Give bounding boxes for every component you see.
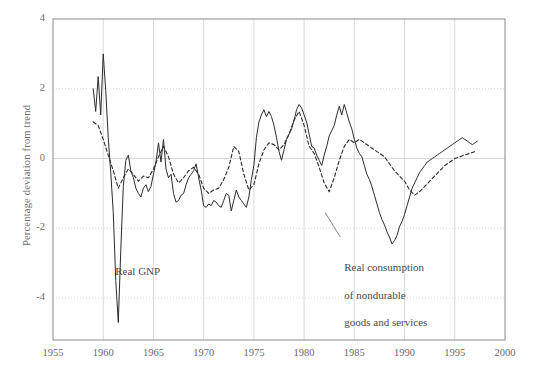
x-tick-1985: 1985 bbox=[334, 347, 374, 358]
annotation-line-1: Real consumption bbox=[344, 261, 427, 275]
annotation-line-3: goods and services bbox=[344, 316, 427, 330]
x-tick-1960: 1960 bbox=[83, 347, 123, 358]
x-tick-1970: 1970 bbox=[184, 347, 224, 358]
chart-container: Percentage deviation from trend 19551960… bbox=[0, 0, 544, 383]
y-tick--4: -4 bbox=[19, 291, 45, 302]
x-tick-1990: 1990 bbox=[385, 347, 425, 358]
annotation-real-consumption: Real consumption of nondurable goods and… bbox=[344, 248, 427, 344]
annotation-leader-lines bbox=[325, 213, 340, 237]
x-tick-1975: 1975 bbox=[234, 347, 274, 358]
y-axis-title: Percentage deviation from trend bbox=[21, 86, 32, 266]
x-tick-1965: 1965 bbox=[133, 347, 173, 358]
annotation-line-2: of nondurable bbox=[344, 289, 427, 303]
y-tick--2: -2 bbox=[19, 221, 45, 232]
y-tick-0: 0 bbox=[19, 152, 45, 163]
annotation-real-gnp: Real GNP bbox=[115, 265, 160, 279]
x-tick-1995: 1995 bbox=[435, 347, 475, 358]
x-tick-1980: 1980 bbox=[284, 347, 324, 358]
chart-plot-area bbox=[0, 0, 544, 383]
gridlines bbox=[53, 19, 505, 340]
plot-frame bbox=[53, 19, 505, 340]
y-tick-2: 2 bbox=[19, 82, 45, 93]
x-tick-2000: 2000 bbox=[485, 347, 525, 358]
x-tick-1955: 1955 bbox=[33, 347, 73, 358]
y-tick-4: 4 bbox=[19, 12, 45, 23]
